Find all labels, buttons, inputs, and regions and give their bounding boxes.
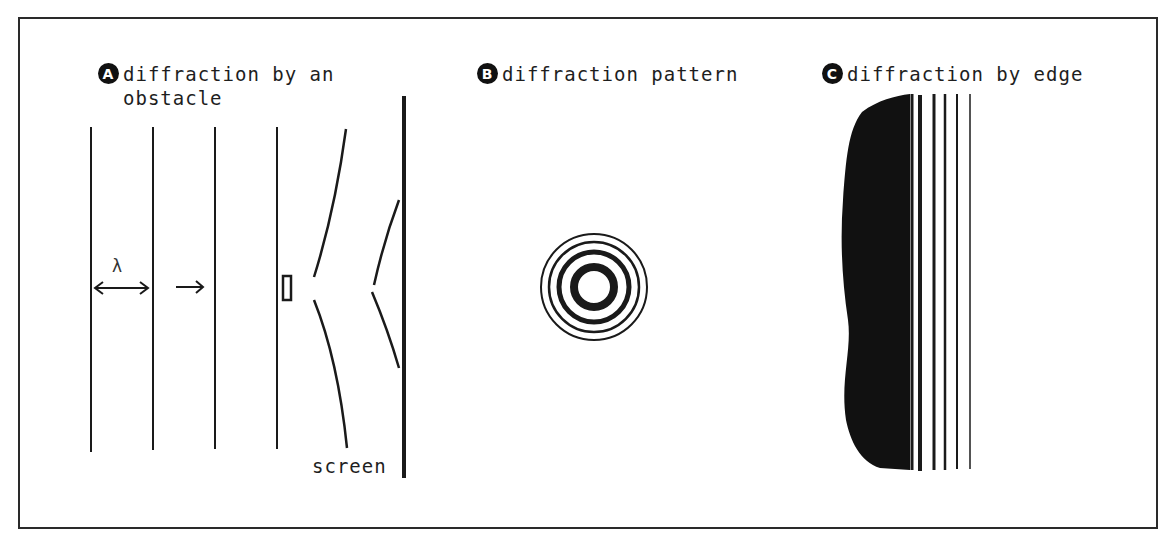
panel-c-diagram — [0, 0, 1174, 543]
edge-shadow — [842, 94, 910, 470]
